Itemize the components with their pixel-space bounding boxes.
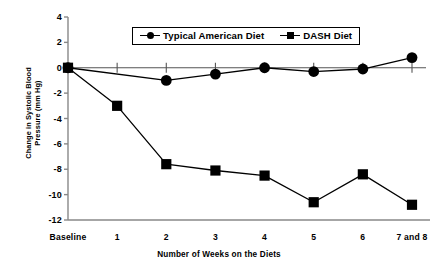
data-point-marker [210,165,220,175]
data-point-marker [112,101,122,111]
data-point-marker [259,170,269,180]
series-typical-american-diet [63,52,418,86]
data-point-marker [210,69,221,80]
data-point-marker [63,63,73,73]
chart-figure: Change in Systolic Blood Pressure (mm Hg… [0,0,438,277]
x-tick-label: Baseline [50,232,87,242]
x-tick-label: 4 [262,232,267,242]
series-dash-diet [63,63,417,210]
chart-legend: Typical American Diet DASH Diet [132,27,360,45]
x-tick-label: 6 [360,232,365,242]
x-tick-label: 2 [164,232,169,242]
series-line [68,68,412,205]
x-tick-label: 7 and 8 [396,232,427,242]
data-point-marker [161,75,172,86]
data-point-marker [308,66,319,77]
data-point-marker [407,200,417,210]
x-tick-label: 5 [311,232,316,242]
legend-item-typical: Typical American Diet [140,30,264,41]
legend-label-dash: DASH Diet [303,30,352,41]
x-axis-title: Number of Weeks on the Diets [0,250,438,259]
data-point-marker [407,52,418,63]
data-point-marker [309,197,319,207]
square-marker-icon [280,30,300,41]
data-point-marker [259,62,270,73]
x-tick-label: 3 [213,232,218,242]
data-point-marker [357,64,368,75]
x-tick-label: 1 [115,232,120,242]
circle-marker-icon [140,30,160,41]
legend-item-dash: DASH Diet [280,30,352,41]
legend-label-typical: Typical American Diet [163,30,264,41]
data-point-marker [161,159,171,169]
data-point-marker [358,169,368,179]
